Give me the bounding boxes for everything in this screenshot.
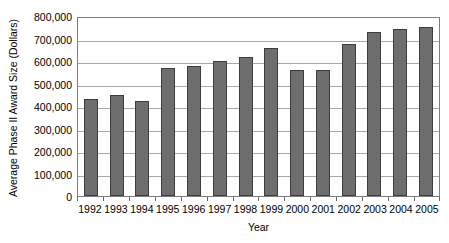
bar-slot [233, 18, 259, 196]
bar [342, 44, 356, 196]
y-axis-tick-label: 0 [18, 192, 72, 203]
y-axis-tick-label: 100,000 [18, 170, 72, 181]
y-axis-tick-label: 400,000 [18, 102, 72, 113]
x-axis-tick-label: 2003 [362, 202, 388, 216]
x-axis-tick-mark [129, 197, 130, 201]
x-axis-tick-mark [181, 197, 182, 201]
bar [290, 70, 304, 196]
bar-slot [207, 18, 233, 196]
y-axis-tick-label: 800,000 [18, 12, 72, 23]
x-axis-tick-label: 1994 [129, 202, 155, 216]
x-axis-tick-label: 2002 [336, 202, 362, 216]
x-axis-tick-slot [414, 197, 440, 201]
y-axis-tick-label: 200,000 [18, 147, 72, 158]
x-axis-tick-label: 1996 [181, 202, 207, 216]
plot-area [77, 17, 440, 197]
x-axis-tick-slot [284, 197, 310, 201]
bar-slot [130, 18, 156, 196]
bar-chart-figure: Average Phase II Award Size (Dollars) 01… [0, 0, 449, 243]
x-axis-tick-slot [181, 197, 207, 201]
bar [135, 101, 149, 196]
y-axis-tick-label: 300,000 [18, 125, 72, 136]
bar [213, 61, 227, 196]
bar-slot [413, 18, 439, 196]
x-axis-tick-label: 1997 [207, 202, 233, 216]
x-axis-tick-mark [388, 197, 389, 201]
y-axis-tick-label: 500,000 [18, 80, 72, 91]
x-axis-tick-label: 2000 [284, 202, 310, 216]
x-axis-tick-label: 1999 [258, 202, 284, 216]
x-axis-tick-label: 1995 [155, 202, 181, 216]
x-axis-tick-slot [155, 197, 181, 201]
x-axis-tick-mark [310, 197, 311, 201]
bar [187, 66, 201, 196]
bar [239, 57, 253, 197]
x-axis-tick-mark [362, 197, 363, 201]
x-axis-tick-mark [77, 197, 78, 201]
bar-slot [336, 18, 362, 196]
x-axis-tick-label: 1998 [233, 202, 259, 216]
bar [419, 27, 433, 196]
x-axis-tick-label-group: 1992199319941995199619971998199920002001… [77, 202, 440, 216]
x-axis-tick-mark-group [77, 197, 440, 201]
x-axis-tick-label: 2001 [310, 202, 336, 216]
bar [161, 68, 175, 196]
bar-slot [258, 18, 284, 196]
bar-slot [362, 18, 388, 196]
x-axis-tick-mark [155, 197, 156, 201]
x-axis-tick-slot [207, 197, 233, 201]
x-axis-tick-mark [103, 197, 104, 201]
x-axis-tick-label: 2005 [414, 202, 440, 216]
bar [264, 48, 278, 196]
x-axis-tick-mark [258, 197, 259, 201]
x-axis-tick-slot [336, 197, 362, 201]
bar-slot [284, 18, 310, 196]
bar-slot [181, 18, 207, 196]
x-axis-tick-slot [233, 197, 259, 201]
x-axis-tick-label: 2004 [388, 202, 414, 216]
x-axis-tick-mark [233, 197, 234, 201]
bar-series [78, 18, 439, 196]
x-axis-tick-slot [129, 197, 155, 201]
y-axis-tick-label: 700,000 [18, 35, 72, 46]
bar-slot [78, 18, 104, 196]
x-axis-tick-slot [77, 197, 103, 201]
x-axis-tick-mark [336, 197, 337, 201]
bar [84, 99, 98, 196]
bar-slot [155, 18, 181, 196]
x-axis-tick-slot [388, 197, 414, 201]
x-axis-title: Year [77, 221, 440, 234]
bar-slot [104, 18, 130, 196]
bar [110, 95, 124, 196]
bar [367, 32, 381, 196]
x-axis-tick-slot [103, 197, 129, 201]
x-axis-tick-mark [439, 197, 440, 201]
x-axis-tick-slot [310, 197, 336, 201]
x-axis-tick-mark [284, 197, 285, 201]
x-axis-tick-mark [207, 197, 208, 201]
bar [393, 29, 407, 196]
x-axis-tick-slot [362, 197, 388, 201]
bar-slot [387, 18, 413, 196]
x-axis-tick-slot [258, 197, 284, 201]
y-axis-tick-label-group: 0100,000200,000300,000400,000500,000600,… [18, 10, 72, 204]
bar [316, 70, 330, 196]
x-axis-tick-mark [414, 197, 415, 201]
bar-slot [310, 18, 336, 196]
x-axis-tick-label: 1992 [77, 202, 103, 216]
x-axis-tick-label: 1993 [103, 202, 129, 216]
y-axis-tick-label: 600,000 [18, 57, 72, 68]
